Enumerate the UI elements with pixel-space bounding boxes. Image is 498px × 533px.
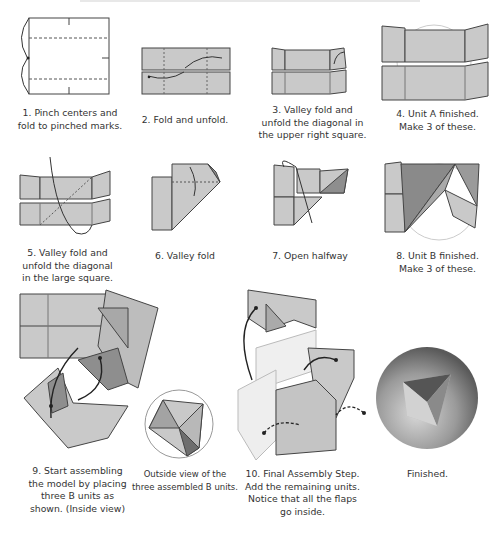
step-9-caption: 9. Start assembling the model by placing… xyxy=(20,465,135,515)
step-1-caption: 1. Pinch centers and fold to pinched mar… xyxy=(10,107,130,132)
step-3-caption: 3. Valley fold and unfold the diagonal i… xyxy=(255,104,370,142)
step-10-diagram xyxy=(236,290,376,460)
finished-caption: Finished. xyxy=(390,468,465,481)
step-1-diagram xyxy=(10,15,120,95)
step-7-diagram xyxy=(272,165,352,240)
outside-view-diagram xyxy=(143,388,215,460)
finished-photo xyxy=(375,346,479,450)
outside-view-caption: Outside view of the three assembled B un… xyxy=(130,468,240,493)
step-4-caption: 4. Unit A finished. Make 3 of these. xyxy=(380,108,495,133)
step-8-caption: 8. Unit B finished. Make 3 of these. xyxy=(380,250,495,275)
step-3-diagram xyxy=(270,48,350,98)
step-8-diagram xyxy=(383,160,495,242)
step-2-diagram xyxy=(140,48,235,98)
square-paper-icon xyxy=(10,15,120,95)
step-6-caption: 6. Valley fold xyxy=(135,250,235,263)
step-10-caption: 10. Final Assembly Step. Add the remaini… xyxy=(240,468,365,518)
step-5-diagram xyxy=(18,155,113,235)
step-7-caption: 7. Open halfway xyxy=(260,250,360,263)
step-5-caption: 5. Valley fold and unfold the diagonal i… xyxy=(10,247,125,285)
step-2-caption: 2. Fold and unfold. xyxy=(130,114,240,127)
page-header-cutoff xyxy=(80,0,420,2)
step-6-diagram xyxy=(150,162,225,232)
step-4-diagram xyxy=(380,22,495,102)
step-9-diagram xyxy=(18,288,163,458)
